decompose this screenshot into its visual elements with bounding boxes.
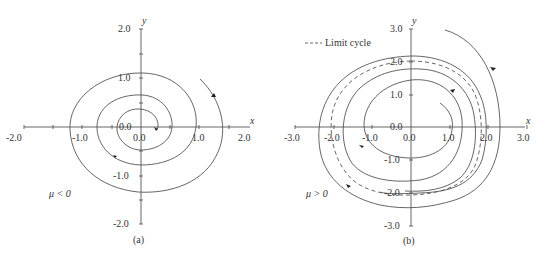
x-tick-label: -3.0 — [284, 132, 300, 143]
caption-b: (b) — [403, 235, 415, 247]
arrows-b — [346, 67, 496, 188]
y-axis-label-b: y — [411, 15, 417, 26]
y-tick-label: 0.0 — [119, 121, 132, 132]
x-tick-label: 0.0 — [403, 132, 416, 143]
x-tick-label: 0.0 — [133, 132, 146, 143]
labels-a: y 2.0 1.0 0.0 -1.0 -2.0 -2.0 -1.0 0.0 1.… — [6, 15, 251, 246]
x-tick-label: -1.0 — [72, 132, 88, 143]
labels-b: y x x 3.0 2.0 1.0 0.0 -1.0 -2.0 -3.0 -3.… — [249, 15, 531, 247]
x-tick-label: 3.0 — [517, 132, 530, 143]
x-tick-label: -2.0 — [6, 132, 22, 143]
x-tick-label: -2.0 — [324, 132, 340, 143]
y-tick-label: 0.0 — [390, 121, 403, 132]
y-tick-label: 2.0 — [390, 56, 403, 67]
y-tick-label: 1.0 — [390, 89, 403, 100]
x-tick-label: 1.0 — [442, 132, 455, 143]
y-tick-label: -2.0 — [113, 218, 129, 229]
y-tick-label: -1.0 — [113, 170, 129, 181]
x-tick-label: -1.0 — [362, 132, 378, 143]
x-tick-label: 1.0 — [192, 132, 205, 143]
y-tick-label: 1.0 — [118, 72, 131, 83]
y-tick-label: -2.0 — [384, 187, 400, 198]
legend-b: Limit cycle — [305, 37, 371, 48]
y-tick-label: -3.0 — [384, 220, 400, 231]
x-tick-label: 2.0 — [238, 132, 251, 143]
panel-b — [295, 29, 527, 226]
legend-label: Limit cycle — [325, 37, 371, 48]
y-tick-label: 2.0 — [118, 23, 131, 34]
inner-trajectory-b — [343, 69, 475, 191]
y-tick-label: 3.0 — [390, 23, 403, 34]
y-axis-label-a: y — [141, 15, 147, 26]
x-axis-label-b: x — [525, 115, 531, 126]
condition-label-b: μ > 0 — [305, 188, 328, 199]
x-axis-label-a: x — [249, 115, 255, 126]
y-tick-label: -1.0 — [384, 154, 400, 165]
phase-portraits: y 2.0 1.0 0.0 -1.0 -2.0 -2.0 -1.0 0.0 1.… — [0, 0, 543, 262]
x-tick-label: 2.0 — [480, 132, 493, 143]
condition-label-a: μ < 0 — [48, 188, 71, 199]
caption-a: (a) — [133, 234, 144, 246]
